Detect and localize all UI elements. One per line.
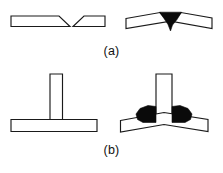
tee-after-base-plate <box>121 113 209 133</box>
panel-b-caption: (b) <box>0 143 223 157</box>
tee-before-vertical-plate <box>50 74 63 120</box>
tee-joint-before-welding <box>11 74 97 132</box>
tee-before-base-plate <box>11 120 97 132</box>
butt-before-right-plate <box>73 16 105 27</box>
panel-a-caption: (a) <box>0 44 223 58</box>
tee-fillet-weld-left <box>136 106 156 123</box>
tee-fillet-weld-right <box>172 106 192 123</box>
welding-distortion-figure: (a) (b) <box>0 0 223 173</box>
panel-b-tee-joint <box>11 74 208 132</box>
butt-joint-before-welding <box>11 16 105 27</box>
tee-joint-after-welding <box>121 74 209 132</box>
butt-before-left-plate <box>11 16 70 27</box>
panel-a-butt-joint <box>11 12 212 31</box>
butt-joint-after-welding <box>126 12 212 31</box>
